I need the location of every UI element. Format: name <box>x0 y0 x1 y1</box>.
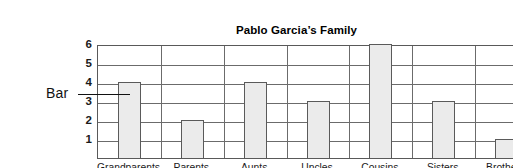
y-tick-label-3: 3 <box>70 96 92 108</box>
x-axis-label-uncles: Uncles <box>286 162 349 168</box>
y-tick-label-5: 5 <box>70 58 92 70</box>
x-axis-label-parents: Parents <box>160 162 223 168</box>
chart-title: Pablo Garcia’s Family <box>40 24 513 36</box>
x-axis-label-sisters: Sisters <box>411 162 474 168</box>
y-tick-label-2: 2 <box>70 115 92 127</box>
bar-chart-figure: Pablo Garcia’s Family 654321 Grandparent… <box>40 16 513 168</box>
bar-aunts <box>244 82 267 158</box>
x-axis-label-cousins: Cousins <box>348 162 411 168</box>
category-separator <box>475 46 476 158</box>
category-separator <box>349 46 350 158</box>
category-separator <box>224 46 225 158</box>
bar-sisters <box>432 101 455 158</box>
bar-annotation-label: Bar <box>46 86 68 100</box>
bar-annotation-leader-line <box>78 94 130 95</box>
bar-cousins <box>369 44 392 158</box>
category-separator <box>287 46 288 158</box>
bar-uncles <box>307 101 330 158</box>
bar-parents <box>181 120 204 158</box>
x-axis-label-brothers: Brothers <box>474 162 513 168</box>
plot-area <box>97 45 513 159</box>
y-tick-label-6: 6 <box>70 39 92 51</box>
y-tick-label-4: 4 <box>70 77 92 89</box>
y-tick-label-1: 1 <box>70 134 92 146</box>
category-separator <box>412 46 413 158</box>
bar-brothers <box>495 139 513 158</box>
x-axis-label-aunts: Aunts <box>223 162 286 168</box>
x-axis-label-grandparents: Grandparents <box>97 162 160 168</box>
category-separator <box>161 46 162 158</box>
